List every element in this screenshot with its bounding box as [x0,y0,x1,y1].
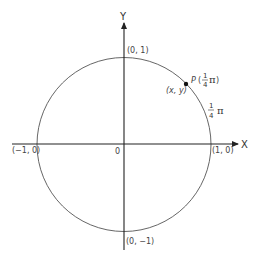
point-p-angle-denominator: 4 [203,81,208,89]
point-p-angle-numerator: 1 [203,72,207,80]
point-p-name: P [191,76,196,85]
point-p-angle-pi: π [209,74,216,85]
point-p-angle-open: ( [198,76,201,85]
intercept-left-label: (−1, 0) [12,146,40,155]
point-p-angle-close: ) [216,76,219,85]
intercept-right-label: (1, 0) [212,146,234,155]
origin-label: 0 [115,147,120,156]
arc-label-pi: π [217,105,224,116]
x-axis-label: X [241,139,248,150]
arc-label-denominator: 4 [209,112,214,120]
intercept-top-label: (0, 1) [127,46,149,55]
intercept-bottom-label: (0, −1) [126,237,154,246]
arc-label-numerator: 1 [209,102,213,110]
y-axis-label: Y [119,11,127,22]
unit-circle-diagram: Y X 0 (0, 1) (0, −1) (−1, 0) (1, 0) P ( … [0,0,258,262]
point-p-coords-label: (x, y) [166,86,187,95]
